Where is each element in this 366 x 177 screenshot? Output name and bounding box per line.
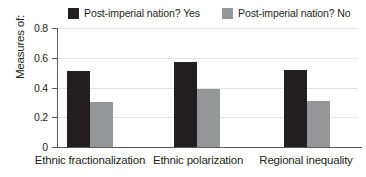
x-category-label: Regional inequality (259, 152, 352, 168)
chart-legend: Post-imperial nation? Yes Post-imperial … (68, 4, 358, 22)
bar (67, 71, 90, 147)
legend-entry-no: Post-imperial nation? No (222, 8, 351, 19)
bar (174, 62, 197, 147)
x-axis-line (58, 147, 362, 148)
bar (284, 70, 307, 147)
x-category-label: Ethnic polarization (153, 152, 243, 168)
legend-swatch-yes (68, 8, 79, 19)
bar (307, 101, 330, 147)
bar (197, 89, 220, 147)
legend-label-yes: Post-imperial nation? Yes (84, 8, 200, 19)
y-tick-label: 0.8 (8, 23, 48, 33)
plot-area (58, 28, 358, 147)
y-tick-label: 0.6 (8, 53, 48, 63)
y-tick-label: 0.2 (8, 112, 48, 122)
x-axis-category-labels: Ethnic fractionalizationEthnic polarizat… (0, 152, 366, 172)
gridline (58, 28, 358, 29)
legend-entry-yes: Post-imperial nation? Yes (68, 8, 200, 19)
legend-swatch-no (222, 8, 233, 19)
legend-label-no: Post-imperial nation? No (238, 8, 351, 19)
x-category-label: Ethnic fractionalization (35, 152, 145, 168)
gridline (58, 58, 358, 59)
bar-chart: Post-imperial nation? Yes Post-imperial … (0, 0, 366, 177)
y-tick-label: 0.4 (8, 83, 48, 93)
bar (90, 102, 113, 147)
y-tick-label: 0 (8, 142, 48, 152)
